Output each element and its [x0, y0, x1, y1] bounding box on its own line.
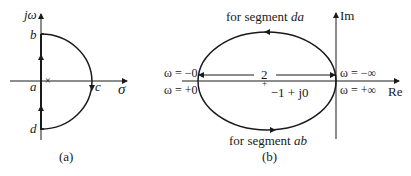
segment-da-prefix: for segment: [226, 9, 291, 24]
sigma-axis-label: σ: [118, 81, 126, 97]
im-axis-label: Im: [340, 8, 354, 23]
nyquist-figure: × jω b a c σ d (a) 2 + −1 + j0 ω = −0 ω …: [0, 0, 411, 176]
panel-b-caption: (b): [262, 149, 277, 164]
re-axis-label: Re: [388, 84, 403, 99]
panel-a: × jω b a c σ d (a): [10, 7, 127, 164]
segment-da-label: for segment da: [226, 9, 304, 24]
point-b-label: b: [30, 27, 37, 42]
omega-plus-infinity-label: ω = +∞: [340, 83, 376, 97]
direction-arrow-top: [264, 29, 270, 35]
point-a-label: a: [30, 79, 37, 94]
omega-plus-zero-label: ω = +0: [164, 83, 197, 97]
omega-minus-zero-label: ω = −0: [164, 66, 197, 80]
segment-ab-label: for segment ab: [229, 133, 307, 148]
segment-da-name: da: [291, 9, 305, 24]
omega-minus-infinity-label: ω = −∞: [340, 66, 376, 80]
point-d-label: d: [30, 121, 37, 136]
direction-arrow-upper: [38, 54, 44, 60]
direction-arrow-lower: [38, 105, 44, 111]
segment-ab-prefix: for segment: [229, 133, 294, 148]
panel-b: 2 + −1 + j0 ω = −0 ω = +0 ω = −∞ ω = +∞ …: [164, 8, 403, 164]
center-label: −1 + j0: [248, 85, 325, 100]
point-c-label: c: [95, 79, 101, 94]
center-label-text: −1 + j0: [271, 85, 309, 100]
panel-a-caption: (a): [59, 149, 73, 164]
jw-axis-label: jω: [22, 7, 37, 22]
pole-marker: ×: [45, 75, 51, 86]
segment-ab-name: ab: [294, 133, 308, 148]
